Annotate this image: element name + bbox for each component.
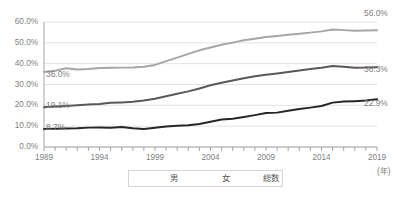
legend-label-male: 男 bbox=[170, 174, 178, 182]
chart-legend bbox=[128, 170, 283, 187]
series-line bbox=[44, 66, 377, 107]
y-tick-label: 40.0% bbox=[0, 60, 38, 68]
end-label-total: 56.0% bbox=[364, 9, 388, 17]
legend-label-total: 総数 bbox=[263, 174, 279, 182]
x-tick-label: 1989 bbox=[24, 154, 64, 162]
y-tick-label: 50.0% bbox=[0, 39, 38, 47]
x-axis-ticks bbox=[44, 147, 377, 151]
x-tick-label: 2019 bbox=[357, 154, 397, 162]
x-tick-label: 1994 bbox=[80, 154, 120, 162]
y-tick-label: 60.0% bbox=[0, 18, 38, 26]
x-tick-label: 2014 bbox=[302, 154, 342, 162]
line-chart: 0.0% 10.0% 20.0% 30.0% 40.0% 50.0% 60.0%… bbox=[0, 0, 404, 198]
x-tick-label: 1999 bbox=[135, 154, 175, 162]
start-label-female: 19.1% bbox=[46, 101, 70, 109]
legend-label-female: 女 bbox=[222, 174, 230, 182]
x-tick-label: 2004 bbox=[191, 154, 231, 162]
start-label-total: 36.0% bbox=[46, 70, 70, 78]
start-label-male: 8.7% bbox=[46, 123, 65, 131]
x-tick-label: 2009 bbox=[246, 154, 286, 162]
chart-plot-area bbox=[0, 0, 404, 198]
x-axis-unit-label: (年) bbox=[377, 168, 390, 176]
y-tick-label: 10.0% bbox=[0, 122, 38, 130]
series-line bbox=[44, 30, 377, 73]
end-label-female: 38.3% bbox=[364, 65, 388, 73]
y-tick-label: 30.0% bbox=[0, 81, 38, 89]
end-label-male: 22.9% bbox=[364, 99, 388, 107]
y-tick-label: 20.0% bbox=[0, 101, 38, 109]
series-lines bbox=[44, 30, 377, 130]
y-tick-label: 0.0% bbox=[0, 143, 38, 151]
